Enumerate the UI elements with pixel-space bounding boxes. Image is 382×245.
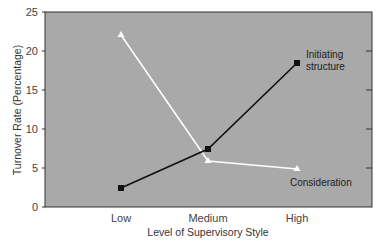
y-tick-0: 0 (32, 201, 38, 213)
y-tick-25: 25 (26, 6, 38, 18)
square-marker-icon (294, 60, 300, 66)
x-tick-low: Low (111, 212, 131, 224)
y-tick-15: 15 (26, 84, 38, 96)
x-axis-title: Level of Supervisory Style (147, 226, 269, 238)
y-tick-20: 20 (26, 45, 38, 57)
square-marker-icon (205, 146, 211, 152)
annotation-initiating-line1: Initiating (306, 49, 343, 60)
square-marker-icon (118, 185, 124, 191)
y-tick-10: 10 (26, 123, 38, 135)
line-chart: 25 20 15 10 5 0 Turnover Rate (Percentag… (0, 0, 382, 245)
x-tick-medium: Medium (188, 212, 227, 224)
x-tick-high: High (286, 212, 309, 224)
y-tick-5: 5 (32, 162, 38, 174)
y-axis-title: Turnover Rate (Percentage) (11, 45, 23, 175)
annotation-initiating-line2: structure (306, 61, 345, 72)
annotation-consideration: Consideration (290, 177, 352, 188)
